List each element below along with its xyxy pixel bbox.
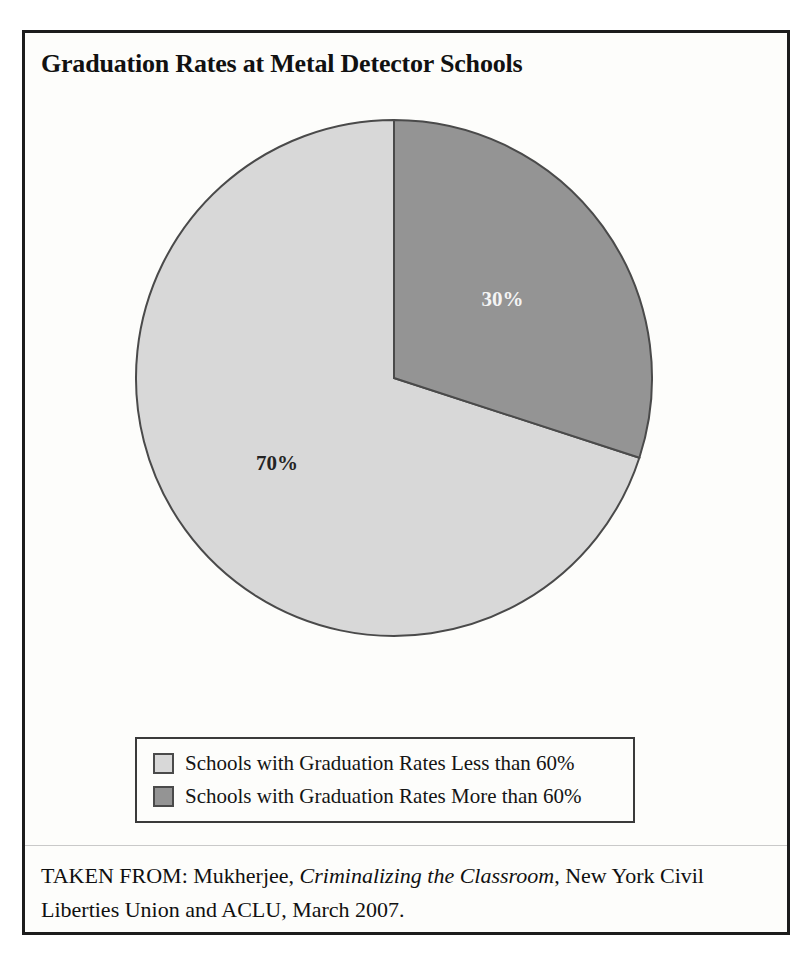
source-book-title: Criminalizing the Classroom (300, 863, 555, 888)
figure-frame: Graduation Rates at Metal Detector Schoo… (22, 30, 790, 935)
source-divider (25, 845, 787, 846)
chart-panel: Graduation Rates at Metal Detector Schoo… (25, 33, 787, 845)
pie-chart-svg: 70%30% (129, 113, 659, 643)
pie-slice-value-label: 30% (482, 287, 524, 311)
legend-item-more-than-60[interactable]: Schools with Graduation Rates More than … (153, 780, 633, 813)
legend-label-more-than-60: Schools with Graduation Rates More than … (185, 784, 582, 809)
pie-chart: 70%30% (25, 33, 787, 845)
legend-item-less-than-60[interactable]: Schools with Graduation Rates Less than … (153, 747, 633, 780)
legend-swatch-dark (153, 786, 174, 807)
source-citation: TAKEN FROM: Mukherjee, Criminalizing the… (41, 859, 773, 927)
legend-label-less-than-60: Schools with Graduation Rates Less than … (185, 751, 575, 776)
source-prefix: TAKEN FROM: Mukherjee, (41, 863, 300, 888)
legend-swatch-light (153, 753, 174, 774)
chart-legend: Schools with Graduation Rates Less than … (135, 737, 635, 823)
pie-slice-value-label: 70% (256, 451, 298, 475)
